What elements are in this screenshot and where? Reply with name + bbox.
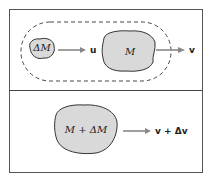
arrowhead-icon — [145, 128, 151, 134]
combined-mass-label: M + ΔM — [64, 124, 108, 135]
arrowhead-icon — [178, 47, 185, 53]
velocity-u-label: u — [90, 45, 96, 55]
arrowhead-icon — [80, 47, 86, 53]
small-mass-label: ΔM — [32, 42, 51, 53]
diagram: ΔM u M v M + ΔM v + Δv — [0, 0, 210, 181]
combined-velocity-label: v + Δv — [155, 126, 188, 136]
large-mass-label: M — [124, 46, 136, 57]
velocity-v-label: v — [189, 45, 195, 55]
